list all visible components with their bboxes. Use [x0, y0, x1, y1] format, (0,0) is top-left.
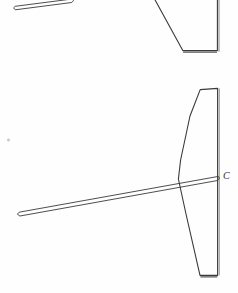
- line-drawing-canvas: [0, 0, 238, 293]
- annotation-label-c: C: [223, 171, 230, 181]
- scan-speck: [7, 138, 10, 141]
- sheet-background: [0, 0, 238, 293]
- scan-artifacts: [7, 138, 10, 141]
- technical-drawing-sheet: C: [0, 0, 238, 293]
